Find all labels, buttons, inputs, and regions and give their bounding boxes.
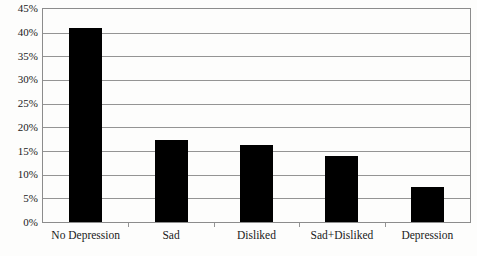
bar <box>69 28 102 222</box>
x-axis-ticks <box>42 223 471 228</box>
y-axis-tick-label: 30% <box>2 74 38 85</box>
x-axis-tick <box>128 223 129 227</box>
y-axis-tick-label: 10% <box>2 169 38 180</box>
x-axis-tick-label: Sad <box>162 229 179 242</box>
y-axis-tick-label: 20% <box>2 121 38 132</box>
bar <box>325 156 358 222</box>
y-axis-tick-label: 45% <box>2 3 38 14</box>
y-axis-tick-label: 40% <box>2 26 38 37</box>
bars-layer <box>43 9 470 222</box>
x-axis-tick <box>385 223 386 227</box>
y-axis: 0%5%10%15%20%25%30%35%40%45% <box>0 0 38 256</box>
x-axis-tick-label: No Depression <box>51 229 120 242</box>
bar <box>240 145 273 222</box>
x-axis-tick <box>214 223 215 227</box>
y-axis-tick-label: 0% <box>2 217 38 228</box>
x-axis-tick <box>299 223 300 227</box>
bar-chart: 0%5%10%15%20%25%30%35%40%45% No Depressi… <box>0 0 477 256</box>
y-axis-tick-label: 15% <box>2 145 38 156</box>
y-axis-tick-label: 25% <box>2 98 38 109</box>
y-axis-tick-label: 5% <box>2 193 38 204</box>
y-axis-tick-label: 35% <box>2 50 38 61</box>
bar <box>411 187 444 222</box>
bar <box>155 140 188 222</box>
x-axis: No DepressionSadDislikedSad+DislikedDepr… <box>42 229 471 251</box>
x-axis-tick-label: Disliked <box>237 229 276 242</box>
x-axis-tick-label: Depression <box>401 229 453 242</box>
x-axis-tick-label: Sad+Disliked <box>311 229 374 242</box>
